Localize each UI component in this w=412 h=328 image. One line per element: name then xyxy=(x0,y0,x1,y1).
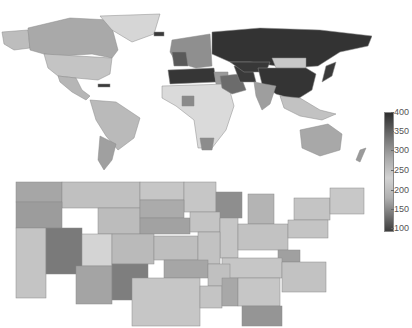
region-australia[interactable] xyxy=(300,124,342,156)
state-california[interactable] xyxy=(16,228,46,298)
state-kentucky-tennessee[interactable] xyxy=(222,258,282,278)
state-michigan[interactable] xyxy=(248,194,274,224)
state-illinois[interactable] xyxy=(220,218,238,258)
region-new-zealand[interactable] xyxy=(356,148,366,162)
state-mississippi[interactable] xyxy=(222,278,238,306)
colorbar-tick-350: 350 xyxy=(394,127,409,136)
state-oklahoma[interactable] xyxy=(164,260,208,278)
state-wyoming[interactable] xyxy=(98,208,140,234)
region-alaska[interactable] xyxy=(2,30,30,50)
region-canada[interactable] xyxy=(28,18,118,58)
region-southeast-asia[interactable] xyxy=(280,96,336,120)
state-new-england[interactable] xyxy=(330,188,364,214)
region-india[interactable] xyxy=(254,82,276,110)
colorbar-tick-150: 150 xyxy=(394,205,409,214)
region-south-africa[interactable] xyxy=(200,138,214,150)
state-north-dakota[interactable] xyxy=(140,182,184,200)
state-kansas[interactable] xyxy=(154,236,198,260)
region-algeria-libya[interactable] xyxy=(168,68,216,84)
state-texas[interactable] xyxy=(132,278,200,326)
state-utah[interactable] xyxy=(82,234,112,266)
region-france[interactable] xyxy=(172,52,188,66)
state-alabama-georgia[interactable] xyxy=(238,278,280,306)
region-cuba[interactable] xyxy=(98,84,110,87)
state-missouri[interactable] xyxy=(198,232,220,264)
region-mexico[interactable] xyxy=(58,76,90,100)
region-japan[interactable] xyxy=(322,62,336,82)
colorbar-tick-250: 250 xyxy=(394,166,409,175)
state-colorado[interactable] xyxy=(112,234,154,264)
state-pennsylvania[interactable] xyxy=(288,220,328,238)
usa-choropleth-map xyxy=(12,178,372,328)
colorbar-tick-100: 100 xyxy=(394,224,409,233)
region-iceland[interactable] xyxy=(154,32,164,36)
state-florida[interactable] xyxy=(242,306,282,326)
state-washington[interactable] xyxy=(16,182,62,202)
state-arizona[interactable] xyxy=(76,266,112,304)
region-brazil[interactable] xyxy=(90,100,140,150)
state-idaho-montana[interactable] xyxy=(62,182,140,208)
colorbar-tick-400: 400 xyxy=(394,108,409,117)
region-africa[interactable] xyxy=(162,84,234,148)
state-new-york[interactable] xyxy=(294,198,330,220)
region-united-states[interactable] xyxy=(44,54,112,80)
state-oregon[interactable] xyxy=(16,202,62,228)
state-indiana-ohio[interactable] xyxy=(238,224,288,250)
colorbar-tick-200: 200 xyxy=(394,186,409,195)
region-nigeria[interactable] xyxy=(182,96,194,106)
state-iowa[interactable] xyxy=(190,212,220,232)
colorbar xyxy=(384,112,394,232)
state-virginia-carolinas[interactable] xyxy=(282,262,326,292)
colorbar-tick-300: 300 xyxy=(394,146,409,155)
state-louisiana[interactable] xyxy=(200,286,222,308)
region-mongolia[interactable] xyxy=(272,58,306,68)
world-choropleth-map xyxy=(0,10,372,170)
state-nebraska[interactable] xyxy=(140,218,190,234)
state-minnesota[interactable] xyxy=(184,182,216,212)
state-south-dakota[interactable] xyxy=(140,200,184,218)
